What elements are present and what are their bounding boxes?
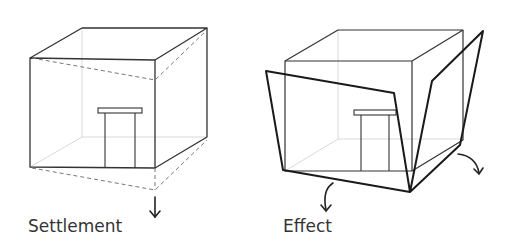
effect-hidden-edges bbox=[285, 30, 463, 171]
settlement-hidden-edges bbox=[30, 28, 207, 167]
settlement-door bbox=[98, 108, 142, 168]
effect-caption: Effect bbox=[283, 216, 332, 236]
effect-panel bbox=[266, 30, 483, 211]
settlement-panel bbox=[30, 28, 207, 217]
settlement-caption: Settlement bbox=[28, 216, 122, 236]
curved-down-right-arrow-icon bbox=[458, 154, 483, 174]
straight-down-arrow-icon bbox=[150, 197, 160, 217]
settlement-cube bbox=[30, 28, 207, 168]
effect-cube bbox=[285, 30, 463, 171]
effect-door bbox=[354, 110, 396, 171]
diagram-canvas bbox=[0, 0, 505, 251]
curved-down-left-arrow-icon bbox=[321, 183, 333, 211]
